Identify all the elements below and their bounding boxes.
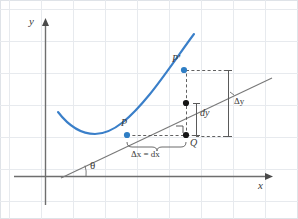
point-Q bbox=[183, 132, 189, 138]
point-P-prime bbox=[181, 67, 187, 73]
label-delta-y: Δy bbox=[234, 97, 244, 106]
label-theta: θ bbox=[90, 160, 95, 171]
label-differential-dy: dy bbox=[200, 108, 209, 118]
point-P bbox=[124, 132, 130, 138]
differentials-diagram: y x P P' Q dy Δy Δx = dx θ bbox=[0, 0, 298, 219]
y-axis-label: y bbox=[29, 16, 34, 27]
x-axis-label: x bbox=[258, 180, 263, 191]
label-delta-x-equals-dx: Δx = dx bbox=[131, 150, 160, 159]
label-point-p-prime: P' bbox=[172, 54, 180, 64]
label-point-q: Q bbox=[190, 138, 197, 148]
diagram-canvas bbox=[0, 0, 298, 219]
label-point-p: P bbox=[121, 118, 127, 128]
point-R-on-tangent bbox=[183, 100, 189, 106]
